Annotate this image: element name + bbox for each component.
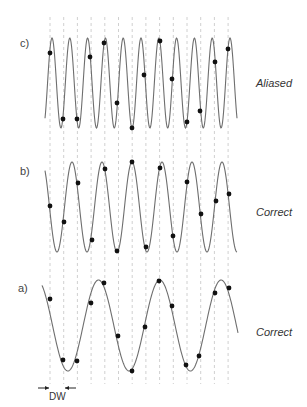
sample-point — [213, 60, 218, 65]
sample-point — [76, 181, 81, 186]
sample-point — [115, 101, 120, 106]
sample-point — [143, 325, 148, 330]
waveforms — [42, 38, 238, 371]
sample-point — [130, 160, 135, 165]
left-arrow-icon — [65, 386, 76, 390]
sample-point — [75, 117, 80, 122]
sample-point — [103, 167, 108, 172]
sample-point — [184, 363, 189, 368]
sample-point — [116, 334, 121, 339]
sample-point — [185, 180, 190, 185]
waveform-c — [45, 38, 237, 128]
sample-point — [48, 204, 53, 209]
sample-point — [89, 301, 94, 306]
sample-point — [88, 55, 93, 60]
sample-point — [130, 369, 135, 374]
sample-point — [198, 109, 203, 114]
sample-point — [102, 41, 107, 46]
sampling-diagram — [0, 0, 307, 407]
sample-point — [90, 238, 95, 243]
sample-point — [61, 117, 66, 122]
sample-point — [157, 279, 162, 284]
sample-point — [48, 297, 53, 302]
sample-point — [48, 51, 53, 56]
sample-point — [170, 304, 175, 309]
sample-point — [226, 47, 231, 52]
waveform-a — [42, 280, 238, 371]
status-label-correct-a: Correct — [256, 326, 292, 338]
sample-point — [199, 212, 204, 217]
sample-point — [61, 358, 66, 363]
sample-point — [185, 120, 190, 125]
sample-point — [158, 166, 163, 171]
sample-point — [158, 39, 163, 44]
sample-point — [75, 359, 80, 364]
sample-point — [170, 77, 175, 82]
dwell-time-label: DW — [49, 391, 66, 402]
sample-point — [142, 73, 147, 78]
status-label-correct-b: Correct — [256, 206, 292, 218]
sample-point — [144, 245, 149, 250]
waveform-b — [45, 162, 237, 252]
panel-label-b: b) — [20, 165, 30, 177]
status-label-aliased: Aliased — [256, 77, 292, 89]
sample-point — [213, 291, 218, 296]
sample-point — [102, 281, 107, 286]
sample-point — [227, 192, 232, 197]
dwell-time-arrows — [38, 386, 76, 390]
sample-point — [115, 249, 120, 254]
sample-point — [214, 199, 219, 204]
sample-point — [197, 354, 202, 359]
right-arrow-icon — [38, 386, 49, 390]
sample-point — [62, 220, 67, 225]
sample-point — [130, 126, 135, 131]
panel-label-c: c) — [20, 37, 29, 49]
sample-point — [171, 234, 176, 239]
panel-label-a: a) — [18, 282, 28, 294]
sample-point — [227, 286, 232, 291]
